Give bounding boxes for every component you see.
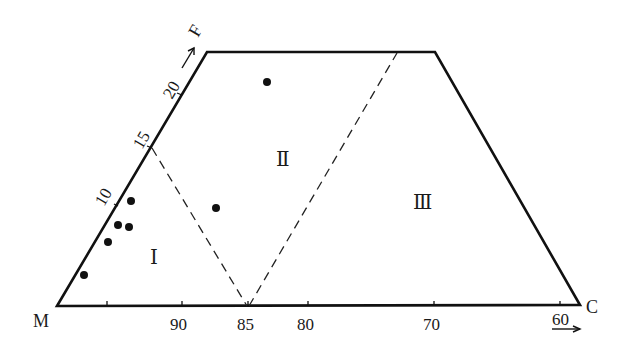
boundary-dashed-II-III (249, 53, 397, 306)
region-label-II: Ⅱ (276, 148, 290, 170)
vertex-label-F: F (184, 21, 206, 40)
classification-diagram: 90 85 80 70 60 10 15 20 F M C Ⅰ Ⅱ Ⅲ (0, 0, 626, 360)
bottom-tick-70: 70 (423, 315, 440, 334)
vertex-label-M: M (33, 311, 49, 331)
trapezoid-outline (57, 52, 580, 306)
data-point (263, 78, 271, 86)
bottom-tick-85: 85 (237, 315, 254, 334)
boundary-dashed-I-II (152, 148, 247, 306)
data-point (104, 238, 112, 246)
left-tick-10: 10 (91, 185, 116, 209)
data-point (114, 221, 122, 229)
region-label-III: Ⅲ (413, 191, 432, 213)
data-point (127, 197, 135, 205)
data-point (125, 223, 133, 231)
left-axis-arrow-icon (182, 48, 194, 68)
vertex-label-C: C (586, 297, 598, 317)
bottom-tick-60: 60 (552, 310, 569, 329)
data-point (80, 271, 88, 279)
region-label-I: Ⅰ (150, 246, 158, 268)
bottom-tick-80: 80 (297, 315, 314, 334)
data-point (212, 204, 220, 212)
data-points (80, 78, 271, 279)
bottom-tick-90: 90 (170, 315, 187, 334)
